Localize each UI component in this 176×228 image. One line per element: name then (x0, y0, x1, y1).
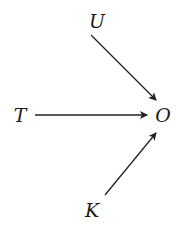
node-k: K (84, 199, 101, 221)
node-o: O (155, 104, 171, 126)
node-u: U (89, 10, 106, 32)
causal-diagram: U T O K (0, 0, 176, 228)
edge-u-to-o (91, 35, 156, 100)
node-t: T (14, 104, 28, 126)
edge-k-to-o (105, 133, 156, 195)
